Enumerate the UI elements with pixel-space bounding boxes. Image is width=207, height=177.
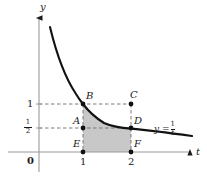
point-marker-C: [129, 102, 134, 107]
point-marker-B: [81, 102, 86, 107]
figure-area-under-hyperbola: y t 0 1 1 2 1 2 B A E C D F y = 1 t: [0, 0, 207, 177]
point-marker-D: [129, 126, 134, 131]
curve-equation-fraction: 1 t: [171, 121, 175, 137]
x-tick-label-2: 2: [128, 157, 134, 167]
point-marker-F: [129, 150, 134, 155]
point-label-E: E: [73, 139, 80, 149]
x-tick-label-1: 1: [80, 157, 86, 167]
y-axis-label: y: [40, 2, 46, 12]
point-label-B: B: [86, 91, 93, 101]
point-marker-A: [81, 126, 86, 131]
curve-equation-label: y = 1 t: [154, 121, 175, 137]
figure-canvas: [0, 0, 207, 177]
point-label-D: D: [134, 116, 142, 126]
curve-equation-denominator: t: [171, 130, 175, 137]
y-tick-label-one-half-numerator: 1: [23, 119, 33, 126]
origin-label: 0: [27, 156, 34, 166]
point-label-C: C: [130, 90, 138, 100]
x-axis-label: t: [196, 147, 200, 157]
point-label-A: A: [73, 116, 80, 126]
y-tick-label-one-half-denominator: 2: [23, 128, 33, 135]
curve-equation-lhs: y =: [154, 125, 170, 134]
y-tick-label-1: 1: [27, 99, 33, 109]
point-marker-E: [81, 150, 86, 155]
y-tick-label-one-half: 1 2: [23, 119, 33, 135]
curve-equation-numerator: 1: [171, 121, 175, 128]
point-label-F: F: [134, 139, 141, 149]
